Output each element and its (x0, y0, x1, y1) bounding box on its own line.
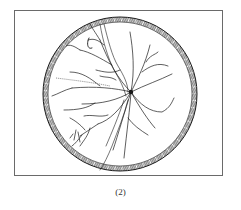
peripheral-ring (43, 17, 197, 171)
fundus-illustration (0, 0, 241, 210)
dotted-streak (56, 78, 110, 86)
figure-caption: (2) (0, 187, 241, 197)
